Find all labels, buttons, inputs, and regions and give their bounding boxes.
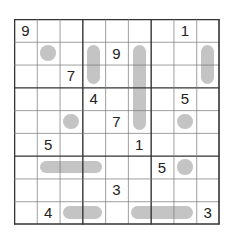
grid-cell-r1c7[interactable] bbox=[151, 19, 174, 42]
grid-cell-r9c1[interactable] bbox=[14, 201, 37, 224]
grid-cell-r4c4[interactable]: 4 bbox=[82, 87, 105, 110]
grid-cell-r3c8[interactable] bbox=[173, 65, 196, 88]
grid-cell-r4c6[interactable] bbox=[128, 87, 151, 110]
given-digit: 5 bbox=[181, 90, 189, 107]
grid-cell-r1c2[interactable] bbox=[37, 19, 60, 42]
puzzle-board: 9197457515343 bbox=[14, 19, 219, 224]
grid-cell-r5c3[interactable] bbox=[60, 110, 83, 133]
grid-cell-r3c2[interactable] bbox=[37, 65, 60, 88]
given-digit: 4 bbox=[90, 90, 98, 107]
grid-cell-r4c7[interactable] bbox=[151, 87, 174, 110]
grid-cell-r5c7[interactable] bbox=[151, 110, 174, 133]
grid-cell-r5c9[interactable] bbox=[196, 110, 219, 133]
grid-cell-r4c2[interactable] bbox=[37, 87, 60, 110]
grid-cell-r6c5[interactable] bbox=[105, 133, 128, 156]
grid-cell-r2c9[interactable] bbox=[196, 42, 219, 65]
grid-cell-r2c3[interactable] bbox=[60, 42, 83, 65]
grid-cell-r8c6[interactable] bbox=[128, 178, 151, 201]
grid-cell-r5c2[interactable] bbox=[37, 110, 60, 133]
grid-cell-r8c2[interactable] bbox=[37, 178, 60, 201]
given-digit: 1 bbox=[135, 136, 143, 153]
grid-cell-r8c3[interactable] bbox=[60, 178, 83, 201]
grid-cell-r6c6[interactable]: 1 bbox=[128, 133, 151, 156]
grid-cell-r8c4[interactable] bbox=[82, 178, 105, 201]
given-digit: 7 bbox=[67, 67, 75, 84]
grid-cell-r5c6[interactable] bbox=[128, 110, 151, 133]
given-digit: 3 bbox=[112, 181, 120, 198]
grid-cell-r5c5[interactable]: 7 bbox=[105, 110, 128, 133]
grid-cell-r8c7[interactable] bbox=[151, 178, 174, 201]
grid-cell-r4c1[interactable] bbox=[14, 87, 37, 110]
grid-cell-r3c4[interactable] bbox=[82, 65, 105, 88]
given-digit: 9 bbox=[112, 45, 120, 62]
grid-cell-r6c9[interactable] bbox=[196, 133, 219, 156]
grid-cell-r9c3[interactable] bbox=[60, 201, 83, 224]
grid-cell-r5c4[interactable] bbox=[82, 110, 105, 133]
grid-cell-r1c9[interactable] bbox=[196, 19, 219, 42]
grid-cell-r7c1[interactable] bbox=[14, 156, 37, 179]
grid-cell-r1c1[interactable]: 9 bbox=[14, 19, 37, 42]
grid-cell-r4c9[interactable] bbox=[196, 87, 219, 110]
grid-cell-r7c5[interactable] bbox=[105, 156, 128, 179]
grid-cell-r2c7[interactable] bbox=[151, 42, 174, 65]
grid-cell-r4c5[interactable] bbox=[105, 87, 128, 110]
grid-cell-r9c9[interactable]: 3 bbox=[196, 201, 219, 224]
grid-cell-r3c3[interactable]: 7 bbox=[60, 65, 83, 88]
grid-cell-r6c8[interactable] bbox=[173, 133, 196, 156]
grid-cell-r2c2[interactable] bbox=[37, 42, 60, 65]
grid-cell-r4c3[interactable] bbox=[60, 87, 83, 110]
grid-cell-r1c3[interactable] bbox=[60, 19, 83, 42]
grid-cell-r2c4[interactable] bbox=[82, 42, 105, 65]
grid-cell-r6c7[interactable] bbox=[151, 133, 174, 156]
grid-cell-r4c8[interactable]: 5 bbox=[173, 87, 196, 110]
given-digit: 9 bbox=[21, 22, 29, 39]
grid-cell-r7c4[interactable] bbox=[82, 156, 105, 179]
grid-cell-r2c8[interactable] bbox=[173, 42, 196, 65]
given-digit: 5 bbox=[158, 159, 166, 176]
grid-cell-r1c6[interactable] bbox=[128, 19, 151, 42]
grid-cell-r7c6[interactable] bbox=[128, 156, 151, 179]
grid-cell-r7c7[interactable]: 5 bbox=[151, 156, 174, 179]
given-digit: 5 bbox=[44, 136, 52, 153]
grid-cell-r1c4[interactable] bbox=[82, 19, 105, 42]
given-digit: 1 bbox=[181, 22, 189, 39]
grid-cell-r6c1[interactable] bbox=[14, 133, 37, 156]
grid-cell-r5c1[interactable] bbox=[14, 110, 37, 133]
grid-cell-r3c9[interactable] bbox=[196, 65, 219, 88]
grid-cell-r9c5[interactable] bbox=[105, 201, 128, 224]
grid-cell-r1c5[interactable] bbox=[105, 19, 128, 42]
given-digit: 4 bbox=[44, 204, 52, 221]
grid-cell-r3c1[interactable] bbox=[14, 65, 37, 88]
grid-cell-r2c5[interactable]: 9 bbox=[105, 42, 128, 65]
grid-cell-r2c6[interactable] bbox=[128, 42, 151, 65]
grid-cell-r6c3[interactable] bbox=[60, 133, 83, 156]
grid-cell-r7c9[interactable] bbox=[196, 156, 219, 179]
grid-cell-r9c6[interactable] bbox=[128, 201, 151, 224]
grid-cell-r6c2[interactable]: 5 bbox=[37, 133, 60, 156]
grid-cell-r9c2[interactable]: 4 bbox=[37, 201, 60, 224]
given-digit: 3 bbox=[203, 204, 211, 221]
grid-cell-r1c8[interactable]: 1 bbox=[173, 19, 196, 42]
given-digit: 7 bbox=[112, 113, 120, 130]
grid-cell-r9c8[interactable] bbox=[173, 201, 196, 224]
grid-cell-r9c4[interactable] bbox=[82, 201, 105, 224]
grid-cell-r3c6[interactable] bbox=[128, 65, 151, 88]
grid-cell-r8c9[interactable] bbox=[196, 178, 219, 201]
grid-cell-r7c2[interactable] bbox=[37, 156, 60, 179]
grid-cell-r7c3[interactable] bbox=[60, 156, 83, 179]
grid-cell-r7c8[interactable] bbox=[173, 156, 196, 179]
grid-cell-r5c8[interactable] bbox=[173, 110, 196, 133]
grid-cell-r8c5[interactable]: 3 bbox=[105, 178, 128, 201]
grid-cell-r8c1[interactable] bbox=[14, 178, 37, 201]
grid-cell-r3c7[interactable] bbox=[151, 65, 174, 88]
grid-cell-r2c1[interactable] bbox=[14, 42, 37, 65]
grid-cell-r6c4[interactable] bbox=[82, 133, 105, 156]
grid-cell-r3c5[interactable] bbox=[105, 65, 128, 88]
grid-cell-r9c7[interactable] bbox=[151, 201, 174, 224]
grid-cell-r8c8[interactable] bbox=[173, 178, 196, 201]
